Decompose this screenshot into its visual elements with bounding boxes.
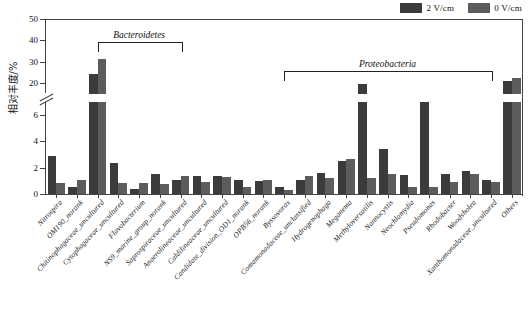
bar-group (439, 19, 460, 194)
bar-2vcm (110, 19, 119, 194)
bar-0vcm (491, 19, 500, 194)
bar-segment (222, 177, 231, 194)
bar-segment-lower (503, 102, 512, 194)
bar-2vcm (400, 19, 409, 194)
bar-segment (151, 174, 160, 194)
bar-segment (470, 174, 479, 194)
bar-0vcm (388, 19, 397, 194)
bar-0vcm (56, 19, 65, 194)
bar-segment (450, 182, 459, 195)
bar-segment (139, 183, 148, 194)
bar-segment (367, 178, 376, 194)
bar-segment-upper (358, 84, 367, 94)
bar-2vcm (172, 19, 181, 194)
bar-0vcm (77, 19, 86, 194)
bar-segment (388, 174, 397, 194)
bar-0vcm (98, 19, 107, 194)
legend-label-0vcm: 0 V/cm (494, 3, 522, 13)
bar-segment (305, 176, 314, 194)
x-axis-label: Nitrospira (0, 198, 64, 328)
bar-2vcm (275, 19, 284, 194)
bar-group (67, 19, 88, 194)
bar-2vcm (379, 19, 388, 194)
bar-series-container (46, 19, 522, 194)
y-tick-label-0: 0 (0, 189, 38, 199)
bar-group (274, 19, 295, 194)
y-tick-label-2: 2 (0, 163, 38, 173)
x-axis-labels: NitrospiraOM190_norankChitinophagaceae_u… (46, 196, 522, 288)
legend-swatch-2vcm (400, 3, 422, 13)
bar-0vcm (429, 19, 438, 194)
bar-segment (213, 176, 222, 194)
bar-segment (110, 163, 119, 195)
bar-2vcm (441, 19, 450, 194)
bar-group (46, 19, 67, 194)
bar-2vcm (48, 19, 57, 194)
bar-segment (234, 180, 243, 195)
bar-0vcm (408, 19, 417, 194)
bar-2vcm (358, 19, 367, 194)
legend-item-0: 2 V/cm (400, 3, 454, 13)
bar-segment-lower (89, 102, 98, 194)
bar-0vcm (325, 19, 334, 194)
bar-group (315, 19, 336, 194)
bar-segment (181, 176, 190, 194)
y-tick-label-40: 40 (0, 35, 38, 45)
bar-0vcm (346, 19, 355, 194)
bar-segment (130, 189, 139, 194)
bar-2vcm (234, 19, 243, 194)
legend-item-1: 0 V/cm (468, 3, 522, 13)
bar-group (460, 19, 481, 194)
bar-segment (379, 149, 388, 194)
bar-segment-upper (89, 74, 98, 94)
y-tick-label-6: 6 (0, 110, 38, 120)
y-tick-0 (40, 194, 45, 195)
bar-segment (408, 187, 417, 194)
bar-segment-lower (358, 102, 367, 194)
bar-0vcm (367, 19, 376, 194)
bar-segment (317, 173, 326, 194)
bar-segment (255, 181, 264, 194)
bar-segment (263, 180, 272, 194)
bar-segment (325, 178, 334, 194)
bar-2vcm (296, 19, 305, 194)
bar-2vcm (503, 19, 512, 194)
y-tick-label-30: 30 (0, 57, 38, 67)
bar-group (212, 19, 233, 194)
bar-segment (482, 180, 491, 195)
bar-segment (172, 180, 181, 195)
bar-2vcm (89, 19, 98, 194)
bar-group (170, 19, 191, 194)
bar-segment (48, 156, 57, 194)
bar-2vcm (255, 19, 264, 194)
bar-2vcm (193, 19, 202, 194)
bar-0vcm (263, 19, 272, 194)
bar-group (501, 19, 522, 194)
bar-2vcm (213, 19, 222, 194)
y-tick-40 (40, 40, 45, 41)
bar-segment (491, 182, 500, 195)
bar-0vcm (118, 19, 127, 194)
y-tick-30 (40, 62, 45, 63)
bar-2vcm (317, 19, 326, 194)
bar-segment (338, 161, 347, 194)
bar-0vcm (160, 19, 169, 194)
bar-segment (462, 171, 471, 194)
y-tick-label-4: 4 (0, 136, 38, 146)
bar-0vcm (139, 19, 148, 194)
bar-segment-lower (98, 102, 107, 194)
y-tick-50 (40, 19, 45, 20)
bar-0vcm (284, 19, 293, 194)
bar-segment (68, 187, 77, 194)
y-tick-2 (40, 168, 45, 169)
y-tick-label-50: 50 (0, 14, 38, 24)
bar-segment (275, 187, 284, 194)
bar-segment (284, 190, 293, 194)
bar-0vcm (512, 19, 521, 194)
legend-swatch-0vcm (468, 3, 490, 13)
bar-segment-lower (512, 102, 521, 194)
bar-segment (77, 180, 86, 195)
chart-legend: 2 V/cm 0 V/cm (400, 3, 522, 13)
bar-segment (118, 183, 127, 194)
bar-segment-upper (512, 78, 521, 94)
